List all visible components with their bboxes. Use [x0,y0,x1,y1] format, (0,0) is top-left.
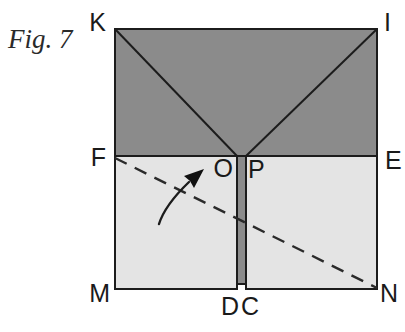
vertex-label-F: F [91,143,106,171]
geometry-diagram-svg: K I F O P E M D C N Fig. 7 [0,0,405,332]
vertex-label-D: D [221,292,239,320]
vertex-label-P: P [248,155,265,183]
figure-caption: Fig. 7 [7,24,74,54]
vertex-label-K: K [89,8,106,36]
vertex-label-M: M [89,279,110,307]
lower-right-panel [246,156,377,289]
vertex-label-I: I [384,8,391,36]
figure-7-diagram: K I F O P E M D C N Fig. 7 [0,0,405,332]
vertex-label-C: C [241,292,259,320]
vertex-label-E: E [385,146,402,174]
vertex-label-N: N [380,279,398,307]
upper-dark-panel [115,29,377,156]
vertex-label-O: O [214,154,233,182]
